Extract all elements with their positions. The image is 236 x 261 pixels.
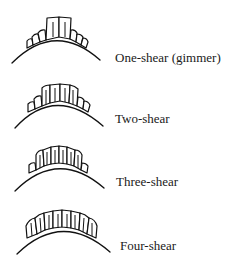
stage-two-shear: Two-shear [15, 84, 170, 128]
teeth-icon [27, 17, 88, 48]
stage-three-shear: Three-shear [15, 146, 179, 191]
stage-label: Three-shear [116, 174, 179, 189]
dentition-diagram: One-shear (gimmer) Two-shear [0, 0, 236, 261]
stage-label: Four-shear [120, 238, 177, 253]
jaw-arch-icon [15, 169, 104, 191]
teeth-icon [28, 84, 90, 112]
teeth-icon [26, 210, 97, 238]
stage-label: Two-shear [115, 111, 170, 126]
stage-four-shear: Four-shear [17, 210, 177, 254]
stage-one-shear: One-shear (gimmer) [12, 17, 221, 65]
stage-label: One-shear (gimmer) [115, 50, 221, 65]
